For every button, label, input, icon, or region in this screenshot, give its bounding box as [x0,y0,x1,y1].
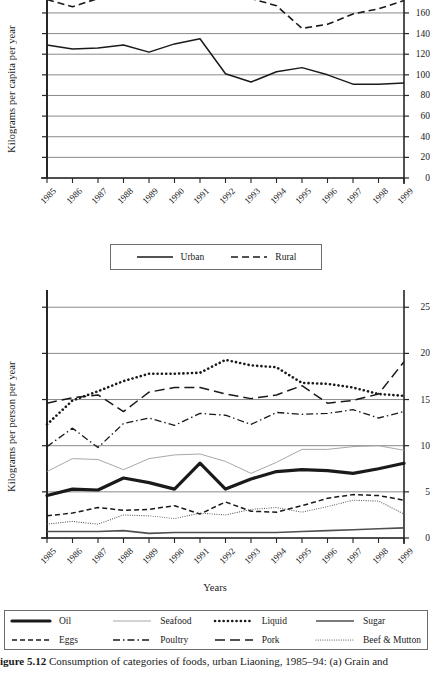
series-beef-mutton [47,500,404,524]
legend-item-seafood: Seafood [112,616,213,626]
series-rural [47,0,404,28]
food-categories-chart: Kilograms per person per year 2520151050… [0,288,430,588]
legend-key [112,635,152,645]
legend-item-rural: Rural [230,252,296,262]
legend-key-dash-dot [112,635,152,645]
legend-key-solid [136,252,174,262]
series-poultry [47,410,404,448]
legend-key-thin-solid [112,616,152,626]
series-seafood [47,446,404,474]
legend-item-oil: Oil [11,616,112,626]
series-eggs [47,495,404,516]
legend-item-beef-mutton: Beef & Mutton [315,635,421,645]
legend-label: Seafood [160,616,191,626]
legend-key [230,252,268,262]
legend-label: Eggs [59,635,78,645]
figure-caption: igure 5.12 Consumption of categories of … [0,655,430,669]
bottom-chart-plot [0,288,430,588]
legend-key [214,635,254,645]
legend-key [11,616,51,626]
series-sugar [47,528,404,534]
legend-label: Pork [262,635,280,645]
legend-key [136,252,174,262]
legend-key-dotted-fine [315,635,355,645]
legend-item-urban: Urban [136,252,205,262]
legend-label: Sugar [363,616,385,626]
legend-label: Liquid [262,616,287,626]
legend-key [112,616,152,626]
series-urban [47,39,404,84]
legend-item-poultry: Poultry [112,635,213,645]
figure-caption-text: Consumption of categories of foods, urba… [49,655,388,667]
legend-key [214,616,254,626]
legend-key-long-dash [214,635,254,645]
legend-item-liquid: Liquid [214,616,315,626]
series-oil [47,463,404,495]
bottom-chart-x-axis-title: Years [0,582,430,593]
legend-key-dotted-thick [214,616,254,626]
legend-label: Oil [59,616,71,626]
top-chart-legend: UrbanRural [110,244,322,270]
legend-label: Rural [275,252,296,262]
legend-key [315,616,355,626]
legend-key-dash-dash [11,635,51,645]
legend-key-dashed [230,252,268,262]
grain-consumption-chart: Kilograms per capita per year 1801601401… [0,0,430,230]
legend-label: Beef & Mutton [363,635,421,645]
legend-key [11,635,51,645]
legend-label: Urban [181,252,205,262]
legend-key-medium-solid [315,616,355,626]
bottom-chart-legend: OilSeafoodLiquidSugarEggsPoultryPorkBeef… [4,610,428,650]
legend-item-eggs: Eggs [11,635,112,645]
top-chart-plot [0,0,430,230]
legend-key-thick-solid [11,616,51,626]
figure-5-12: Kilograms per capita per year 1801601401… [0,0,430,676]
legend-item-sugar: Sugar [315,616,421,626]
legend-label: Poultry [160,635,188,645]
legend-item-pork: Pork [214,635,315,645]
figure-caption-number: igure 5.12 [0,655,46,667]
legend-key [315,635,355,645]
